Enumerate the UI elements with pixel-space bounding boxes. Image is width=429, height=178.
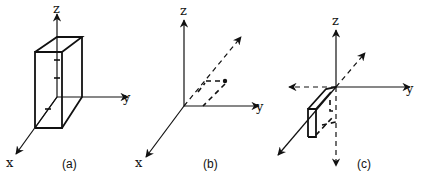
x-axis-arrow xyxy=(146,106,184,157)
z-axis-label: z xyxy=(180,3,187,18)
y-axis-label: y xyxy=(255,99,264,114)
z-axis-label: z xyxy=(332,13,339,28)
x-axis-label: x xyxy=(135,155,143,170)
figure-a: z y x (a) xyxy=(6,1,131,171)
diagram-canvas: z y x (a) z y x (b) z xyxy=(0,0,429,178)
figure-b: z y x (b) xyxy=(135,3,264,171)
y-axis-label: y xyxy=(122,90,131,105)
point-marker xyxy=(223,79,227,83)
small-box xyxy=(308,87,336,137)
diagonal-vector-dashed xyxy=(184,37,241,106)
figure-caption-c: (c) xyxy=(357,157,371,171)
z-axis-label: z xyxy=(53,1,60,16)
diagonal-vector-dashed xyxy=(336,53,365,87)
y-axis-label: y xyxy=(405,81,414,96)
figure-caption-a: (a) xyxy=(62,157,77,171)
rectangular-box xyxy=(35,37,82,128)
figure-caption-b: (b) xyxy=(203,157,218,171)
figure-c: z y (c) xyxy=(278,13,414,171)
projection-dash xyxy=(203,84,225,106)
x-axis-label: x xyxy=(6,155,14,170)
